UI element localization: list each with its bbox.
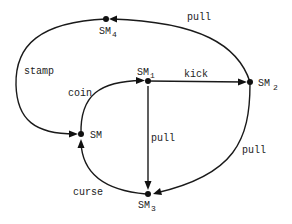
arrow-stamp	[69, 131, 78, 138]
arrow-curse	[78, 139, 85, 148]
label-sm2: SM2	[258, 78, 278, 92]
edge-label-pull-middle: pull	[151, 133, 175, 144]
node-sm3	[145, 191, 151, 197]
node-sm2	[247, 79, 253, 85]
edge-label-coin: coin	[68, 88, 92, 99]
arrow-kick	[238, 79, 247, 86]
node-sm4	[103, 16, 109, 22]
arrow-pull-top	[109, 16, 117, 23]
arrow-pull-right	[153, 188, 162, 195]
edge-pull-top	[112, 19, 250, 82]
edge-label-kick: kick	[184, 69, 208, 80]
state-diagram: SM SM1 SM2 SM3 SM4 coin kick pull pull p…	[0, 0, 292, 224]
label-sm1: SM1	[137, 67, 155, 80]
edge-label-curse: curse	[73, 187, 103, 198]
label-sm4: SM4	[99, 26, 117, 39]
edge-label-stamp: stamp	[24, 66, 54, 77]
label-sm: SM	[90, 130, 102, 141]
edge-label-pull-right: pull	[242, 145, 266, 156]
edge-label-pull-top: pull	[187, 12, 211, 23]
edge-kick	[148, 81, 244, 82]
arrow-pull-middle	[145, 181, 152, 190]
label-sm3: SM3	[138, 200, 156, 213]
arrow-coin	[136, 77, 145, 84]
node-sm	[78, 131, 84, 137]
